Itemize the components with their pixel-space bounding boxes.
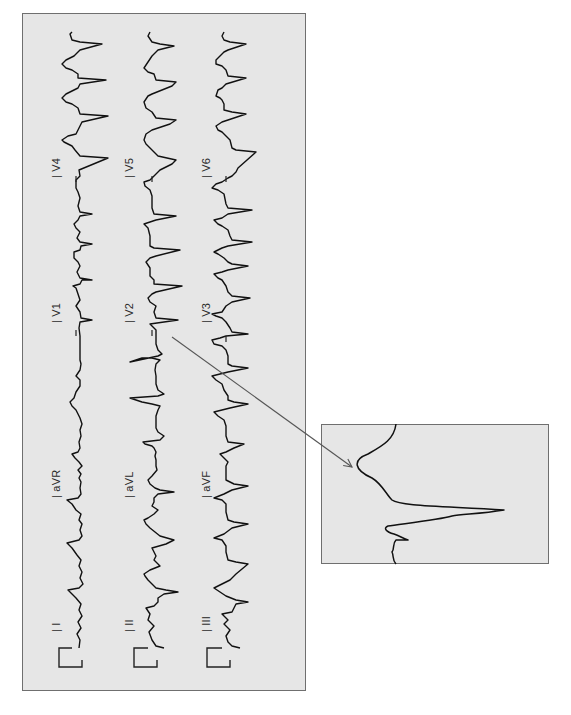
lead-label-v6: | V6 [200, 158, 212, 178]
ecg-inset-panel [321, 424, 549, 564]
lead-label-avf: | aVF [200, 471, 212, 498]
lead-label-ii: | II [123, 619, 135, 632]
lead-label-v2: | V2 [123, 303, 135, 323]
lead-label-v1: | V1 [50, 303, 62, 323]
lead-label-i: | I [50, 622, 62, 632]
lead-label-avr: | aVR [50, 470, 62, 498]
lead-label-v3: | V3 [200, 303, 212, 323]
lead-label-iii: | III [200, 616, 212, 632]
ecg-main-panel [22, 13, 306, 691]
lead-label-avl: | aVL [123, 472, 135, 499]
lead-label-v4: | V4 [50, 158, 62, 178]
lead-label-v5: | V5 [123, 158, 135, 178]
